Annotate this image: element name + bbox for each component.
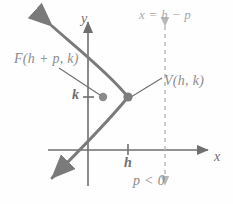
vertex-dot	[123, 92, 132, 101]
diagram-canvas	[0, 0, 233, 204]
parabola-curve	[52, 26, 128, 178]
focus-leader-line	[59, 68, 100, 95]
parabola-diagram: F(h + p, k) V(h, k) x = h − p p < 0 x y …	[0, 0, 233, 204]
vertex-label: V(h, k)	[164, 74, 204, 88]
focus-label: F(h + p, k)	[14, 52, 79, 66]
tick-label-k: k	[72, 88, 79, 102]
directrix-label: x = h − p	[139, 8, 191, 21]
p-condition-label: p < 0	[133, 174, 165, 188]
vertex-leader-line	[131, 78, 162, 97]
y-axis-label: y	[81, 12, 88, 26]
tick-label-h: h	[124, 156, 132, 170]
x-axis-label: x	[214, 150, 221, 164]
focus-dot	[99, 93, 107, 101]
